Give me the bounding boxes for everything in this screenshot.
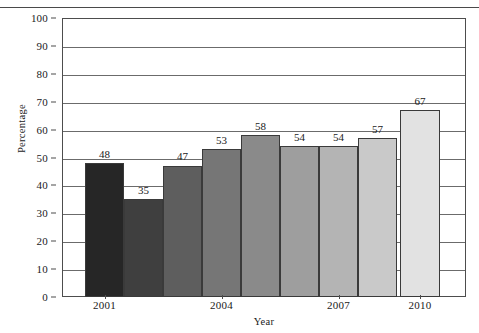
bar-value-2004: 53 <box>216 135 227 146</box>
bar-2008[interactable] <box>358 138 397 297</box>
y-tick-label-100: 100 <box>31 13 48 24</box>
bar-value-2002: 35 <box>138 185 149 196</box>
bar-2007[interactable] <box>319 146 358 297</box>
bar-value-2006: 54 <box>294 132 305 143</box>
figure-container: 100 90 80 70 60 50 40 30 20 10 0 Percent… <box>0 0 479 333</box>
y-tick-label-40: 40 <box>37 180 48 191</box>
bar-2004[interactable] <box>202 149 241 297</box>
y-tick-label-20: 20 <box>37 236 48 247</box>
bar-value-2001: 48 <box>99 149 110 160</box>
bar-value-2005: 58 <box>255 121 266 132</box>
y-axis-title: Percentage <box>16 69 27 189</box>
x-axis: 2001 2004 2007 2010 <box>62 299 466 317</box>
y-tick-mark-40 <box>51 185 56 186</box>
bars-layer: 48 35 47 53 58 54 54 57 67 <box>62 18 466 297</box>
bar-2003[interactable] <box>163 166 202 297</box>
bar-2006[interactable] <box>280 146 319 297</box>
y-tick-mark-10 <box>51 269 56 270</box>
y-tick-label-0: 0 <box>42 292 48 303</box>
y-tick-mark-70 <box>51 101 56 102</box>
bar-2005[interactable] <box>241 135 280 297</box>
y-tick-mark-50 <box>51 157 56 158</box>
page-top-rule <box>0 7 479 8</box>
bar-2002[interactable] <box>124 199 163 297</box>
y-tick-label-90: 90 <box>37 40 48 51</box>
y-tick-label-60: 60 <box>37 124 48 135</box>
y-axis: 100 90 80 70 60 50 40 30 20 10 0 <box>0 18 56 297</box>
y-tick-mark-0 <box>51 297 56 298</box>
bar-value-2003: 47 <box>177 151 188 162</box>
y-tick-label-10: 10 <box>37 264 48 275</box>
y-tick-label-80: 80 <box>37 68 48 79</box>
y-tick-mark-60 <box>51 129 56 130</box>
y-tick-mark-100 <box>51 18 56 19</box>
x-tick-label-2010: 2010 <box>409 299 432 311</box>
x-axis-title: Year <box>62 316 466 327</box>
y-tick-label-30: 30 <box>37 208 48 219</box>
y-tick-mark-80 <box>51 73 56 74</box>
x-tick-label-2004: 2004 <box>210 299 233 311</box>
y-tick-mark-30 <box>51 213 56 214</box>
y-tick-label-50: 50 <box>37 152 48 163</box>
bar-2009[interactable] <box>400 110 440 297</box>
x-tick-label-2001: 2001 <box>93 299 116 311</box>
bar-value-2009: 67 <box>415 96 426 107</box>
y-tick-mark-90 <box>51 45 56 46</box>
bar-2001[interactable] <box>85 163 124 297</box>
bar-value-2008: 57 <box>372 124 383 135</box>
y-tick-label-70: 70 <box>37 96 48 107</box>
bar-value-2007: 54 <box>333 132 344 143</box>
x-tick-label-2007: 2007 <box>327 299 350 311</box>
y-tick-mark-20 <box>51 241 56 242</box>
